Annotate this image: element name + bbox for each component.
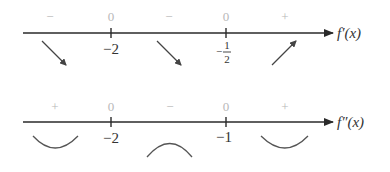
f-double-prime-zero-at-neg2: 0 <box>108 99 115 114</box>
arrow-up-right-icon <box>272 41 296 65</box>
f-double-prime-zero-at-neg1: 0 <box>223 99 230 114</box>
sign-chart-diagram: f′(x) − − + 0 0 −2 − 1 2 f″(x) + − + 0 <box>0 0 390 172</box>
arrow-down-right-icon <box>157 41 181 65</box>
f-prime-sign-interval-1: − <box>46 9 53 24</box>
first-derivative-line: f′(x) − − + 0 0 −2 − 1 2 <box>23 9 361 65</box>
f-prime-sign-interval-3: + <box>281 9 288 24</box>
f-double-prime-label-neg2: −2 <box>103 130 119 146</box>
f-prime-zero-at-neg-half: 0 <box>223 9 230 24</box>
frac-numerator: 1 <box>224 39 230 51</box>
f-double-prime-sign-interval-1: + <box>51 99 58 114</box>
f-double-prime-sign-interval-2: − <box>166 99 173 114</box>
concave-up-icon <box>33 136 78 148</box>
f-prime-zero-at-neg2: 0 <box>108 9 115 24</box>
frac-sign: − <box>216 45 222 57</box>
f-prime-sign-interval-2: − <box>165 9 172 24</box>
f-double-prime-label-neg1: −1 <box>216 129 232 145</box>
concave-up-icon <box>261 136 308 148</box>
arrow-down-right-icon <box>42 41 66 65</box>
concave-down-icon <box>147 144 192 158</box>
f-prime-label: f′(x) <box>337 25 361 42</box>
f-double-prime-sign-interval-3: + <box>281 99 288 114</box>
f-prime-label-neg-half: − 1 2 <box>216 39 231 65</box>
f-double-prime-label: f″(x) <box>337 114 364 131</box>
frac-denominator: 2 <box>224 53 230 65</box>
f-prime-label-neg2: −2 <box>103 41 119 57</box>
second-derivative-line: f″(x) + − + 0 0 −2 −1 <box>23 99 364 157</box>
